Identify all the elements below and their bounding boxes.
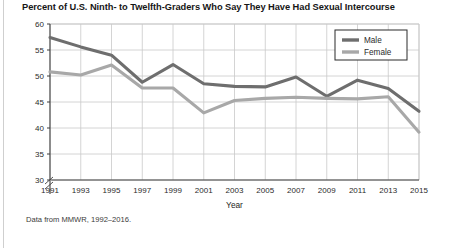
x-axis-tick-labels: 1991199319951997199920012003200520072009… (41, 186, 428, 195)
y-tick-label: 40 (35, 124, 44, 133)
legend-label-male: Male (364, 36, 382, 45)
y-tick-label: 50 (35, 72, 44, 81)
x-tick-label: 2007 (287, 186, 305, 195)
x-tick-label: 1997 (133, 186, 151, 195)
y-axis-tick-labels: 30354045505560 (35, 20, 50, 185)
x-tick-label: 2005 (256, 186, 274, 195)
line-chart: 30354045505560 1991199319951997199920012… (0, 18, 452, 248)
source-note: Data from MMWR, 1992–2016. (26, 215, 131, 224)
x-tick-label: 1993 (72, 186, 90, 195)
x-tick-label: 1999 (164, 186, 182, 195)
chart-legend: MaleFemale (335, 30, 407, 60)
x-tick-label: 2001 (195, 186, 213, 195)
x-tick-label: 1995 (103, 186, 121, 195)
chart-plot-area: 30354045505560 1991199319951997199920012… (0, 18, 452, 248)
legend-label-female: Female (364, 48, 392, 57)
x-tick-label: 2003 (226, 186, 244, 195)
y-tick-label: 35 (35, 150, 44, 159)
y-tick-label: 30 (35, 176, 44, 185)
y-tick-label: 45 (35, 98, 44, 107)
figure-container: Percent of U.S. Ninth- to Twelfth-Grader… (0, 0, 452, 248)
x-tick-label: 1991 (41, 186, 59, 195)
chart-title: Percent of U.S. Ninth- to Twelfth-Grader… (22, 2, 442, 12)
x-tick-label: 2013 (379, 186, 397, 195)
y-tick-label: 60 (35, 20, 44, 29)
y-tick-label: 55 (35, 46, 44, 55)
x-tick-label: 2011 (349, 186, 367, 195)
x-tick-label: 2015 (410, 186, 428, 195)
x-axis-title: Year (226, 200, 243, 210)
x-tick-label: 2009 (318, 186, 336, 195)
